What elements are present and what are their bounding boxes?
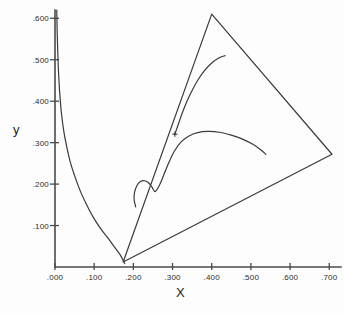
x-tick-label-0: .000 [47,273,63,282]
y-tick-label-4: .500 [20,55,49,64]
x-tick-label-2: .200 [125,273,141,282]
x-tick-label-4: .400 [204,273,220,282]
x-tick-label-6: .600 [282,273,298,282]
y-tick-label-2: .300 [20,138,49,147]
plot-area [0,0,344,313]
x-tick-label-1: .100 [86,273,102,282]
chromaticity-diagram: .000.100.200.300.400.500.600.700 .100.20… [0,0,344,313]
y-tick-label-5: .600 [20,14,49,23]
y-axis-title: y [13,122,20,137]
x-tick-label-5: .500 [243,273,259,282]
y-tick-label-0: .100 [20,221,49,230]
data-series-group [57,10,332,264]
y-tick-label-1: .200 [20,180,49,189]
marker-group [172,132,177,137]
series-gamut-triangle [123,14,332,262]
x-tick-label-3: .300 [164,273,180,282]
series-spectral-locus [57,10,125,264]
x-axis-title: X [176,285,185,300]
y-tick-label-3: .400 [20,97,49,106]
series-planckian-upper-arc [134,131,266,206]
x-tick-label-7: .700 [321,273,337,282]
